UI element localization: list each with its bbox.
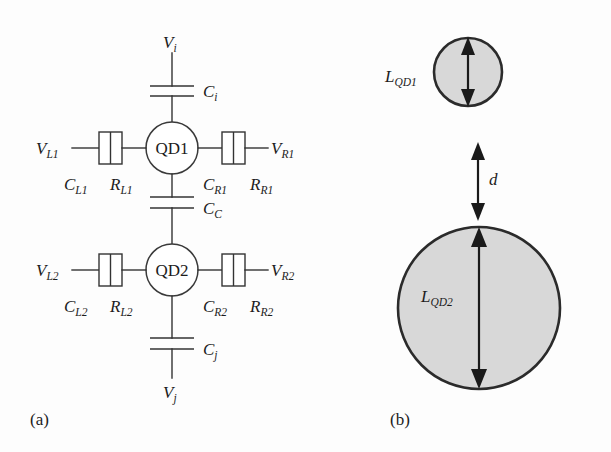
caption-panel-a: (a) bbox=[30, 410, 49, 429]
label-rr2: RR2 bbox=[249, 297, 273, 318]
label-vj: Vj bbox=[163, 383, 177, 405]
dimension-arrow-d-head-bottom bbox=[471, 203, 485, 221]
dimension-arrow-d-head-top bbox=[471, 142, 485, 160]
label-vl2: VL2 bbox=[36, 261, 59, 282]
label-ci: Ci bbox=[203, 82, 218, 103]
label-vr2: VR2 bbox=[271, 261, 294, 282]
left-branch-2 bbox=[72, 254, 146, 286]
panel-a: Vi Ci QD1 VL1 CL1 RL1 bbox=[30, 33, 294, 429]
caption-panel-b: (b) bbox=[390, 410, 410, 429]
label-cr2: CR2 bbox=[203, 297, 227, 318]
label-cl2: CL2 bbox=[64, 297, 88, 318]
label-lqd1: LQD1 bbox=[384, 67, 417, 88]
dimension-arrow-d bbox=[471, 142, 485, 221]
label-cc: CC bbox=[203, 199, 222, 220]
label-rl2: RL2 bbox=[109, 297, 133, 318]
label-cj: Cj bbox=[203, 340, 218, 362]
figure-canvas: Vi Ci QD1 VL1 CL1 RL1 bbox=[0, 0, 611, 452]
right-branch-1 bbox=[198, 132, 268, 164]
coupling-branch bbox=[150, 174, 194, 244]
top-branch bbox=[150, 53, 194, 122]
label-vr1: VR1 bbox=[271, 139, 294, 160]
label-cr1: CR1 bbox=[203, 175, 227, 196]
bottom-branch bbox=[150, 296, 194, 378]
panel-b: LQD1 LQD2 d (b) bbox=[384, 37, 560, 429]
label-rr1: RR1 bbox=[249, 175, 273, 196]
right-branch-2 bbox=[198, 254, 268, 286]
label-vi: Vi bbox=[163, 33, 177, 54]
node-qd1-label: QD1 bbox=[155, 139, 188, 158]
label-vl1: VL1 bbox=[36, 139, 59, 160]
label-rl1: RL1 bbox=[109, 175, 133, 196]
figure-root: Vi Ci QD1 VL1 CL1 RL1 bbox=[0, 0, 611, 452]
left-branch-1 bbox=[72, 132, 146, 164]
label-d: d bbox=[489, 170, 498, 189]
node-qd2-label: QD2 bbox=[155, 261, 188, 280]
label-cl1: CL1 bbox=[64, 175, 88, 196]
